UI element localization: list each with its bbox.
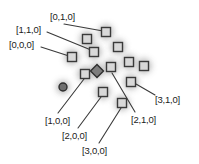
graph-node-square[interactable]: [114, 43, 123, 52]
graph-node-square[interactable]: [102, 28, 111, 37]
graph-node-square[interactable]: [99, 88, 108, 97]
coordinate-label-010: [0,1,0]: [50, 12, 75, 22]
graph-node-square[interactable]: [83, 35, 92, 44]
coordinate-label-110: [1,1,0]: [16, 25, 41, 35]
leader-line-310: [136, 84, 155, 95]
node-shadow-layer: [56, 25, 151, 111]
graph-node-square[interactable]: [140, 62, 149, 71]
graph-node-square[interactable]: [118, 99, 127, 108]
coordinate-label-310: [3,1,0]: [155, 95, 180, 105]
leader-line-000: [41, 47, 69, 56]
graph-node-square[interactable]: [90, 48, 99, 57]
graph-node-square[interactable]: [81, 70, 90, 79]
leader-line-010: [64, 24, 103, 31]
coordinate-label-210: [2,1,0]: [131, 115, 156, 125]
coordinate-label-200: [2,0,0]: [62, 131, 87, 141]
coordinate-label-000: [0,0,0]: [9, 40, 34, 50]
graph-node-square[interactable]: [68, 53, 77, 62]
graph-node-square[interactable]: [127, 78, 136, 87]
coordinate-label-300: [3,0,0]: [82, 146, 107, 156]
leader-line-300: [99, 108, 121, 143]
graph-node-square[interactable]: [125, 58, 134, 67]
coordinate-label-100: [1,0,0]: [45, 116, 70, 126]
graph-diagram: [0,1,0][1,1,0][0,0,0][3,1,0][2,1,0][1,0,…: [0, 0, 199, 164]
leader-line-200: [78, 97, 101, 128]
graph-node-circle[interactable]: [59, 83, 67, 91]
graph-node-square[interactable]: [107, 63, 116, 72]
